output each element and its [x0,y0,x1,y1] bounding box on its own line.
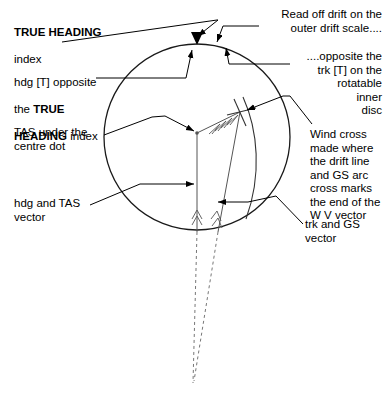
leader-hdg-opposite-arrow [186,50,192,78]
annotation-true-heading-line1: TRUE HEADING [14,26,144,40]
trk-and-gs-vector-line [218,112,240,232]
annotation-opposite-trk: ....opposite the trk [T] on the rotatabl… [276,50,382,118]
annotation-trk-and-gs-vector: trk and GS vector [305,218,383,245]
figure-canvas: TRUE HEADING index hdg [T] opposite the … [0,0,386,393]
annotation-read-off-drift: Read off drift on the outer drift scale.… [260,8,382,35]
trk-dashed-extension [194,232,218,381]
annotation-hdg-opposite-line2-bold: TRUE [33,103,64,115]
wv-vector-feather-1 [209,124,220,134]
annotation-hdg-opposite-line2-pre: the [14,103,33,115]
annotation-hdg-and-tas-vector: hdg and TAS vector [14,197,124,224]
wv-vector-feather-3 [221,118,232,128]
trk-and-gs-vector-feather-1 [211,211,221,221]
leader-trk-gs-vector [248,196,303,224]
annotation-wind-cross: Wind cross made where the drift line and… [310,128,386,223]
leader-read-drift-arrow [217,26,223,42]
wind-cross-stroke-b [227,108,256,115]
hdg-dashed-extension [193,232,197,383]
annotation-hdg-opposite-line2: the TRUE [14,103,124,117]
wv-vector-feather-2 [215,121,226,131]
annotation-hdg-opposite-line1: hdg [T] opposite [14,76,124,90]
wv-vector-feather-4 [227,115,238,125]
leader-tas-dot-arrow [165,116,194,131]
annotation-tas-under-centre-dot: TAS under the centre dot [14,126,124,153]
leader-opposite-trk-arrow [226,48,229,64]
